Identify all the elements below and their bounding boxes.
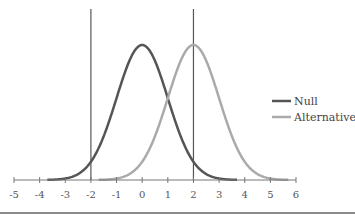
legend-label-null: Null bbox=[294, 95, 318, 108]
density-curves bbox=[47, 45, 288, 180]
legend-label-alternative: Alternative bbox=[293, 111, 355, 124]
x-tick-label: 4 bbox=[242, 189, 248, 200]
x-tick-label: 5 bbox=[267, 189, 273, 200]
chart: -5-4-3-2-10123456 Null Alternative bbox=[0, 0, 355, 216]
legend: Null Alternative bbox=[272, 95, 355, 124]
x-tick-label: -2 bbox=[86, 189, 96, 200]
x-tick-label: -3 bbox=[60, 189, 70, 200]
x-tick-label: 2 bbox=[190, 189, 196, 200]
x-tick-label: 1 bbox=[165, 189, 171, 200]
x-axis: -5-4-3-2-10123456 bbox=[9, 177, 299, 200]
x-tick-label: 3 bbox=[216, 189, 222, 200]
x-tick-label: -1 bbox=[112, 189, 122, 200]
x-tick-label: 0 bbox=[139, 189, 145, 200]
x-tick-label: 6 bbox=[293, 189, 299, 200]
bottom-divider bbox=[0, 212, 355, 214]
x-tick-label: -5 bbox=[9, 189, 19, 200]
x-tick-label: -4 bbox=[35, 189, 45, 200]
critical-value-lines bbox=[91, 9, 194, 180]
